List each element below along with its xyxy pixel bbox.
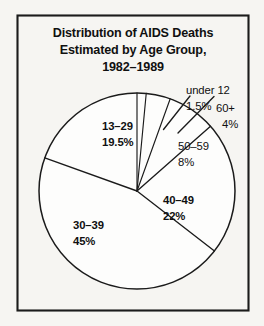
callout-60-plus-value: 4% xyxy=(222,118,238,130)
callout-60-plus-name: 60+ xyxy=(216,102,235,114)
callout-under-12-name: under 12 xyxy=(186,84,230,96)
callout-under-12-value: 1.5% xyxy=(186,100,211,112)
slice-label-40-49-name: 40–49 xyxy=(163,194,194,206)
pie-chart-figure: Distribution of AIDS Deaths Estimated by… xyxy=(0,0,264,326)
chart-title: Distribution of AIDS Deaths Estimated by… xyxy=(53,26,214,74)
slice-label-50-59-value: 8% xyxy=(178,156,194,168)
slice-label-13-29-value: 19.5% xyxy=(102,136,134,148)
title-line-1: Distribution of AIDS Deaths xyxy=(53,26,214,40)
title-line-3: 1982–1989 xyxy=(102,60,164,74)
slice-label-30-39-value: 45% xyxy=(73,235,95,247)
slice-label-30-39-name: 30–39 xyxy=(73,219,104,231)
title-line-2: Estimated by Age Group, xyxy=(60,43,207,57)
slice-label-13-29-name: 13–29 xyxy=(102,120,133,132)
callout-60-plus: 60+ 4% xyxy=(216,102,238,130)
figure-root: Distribution of AIDS Deaths Estimated by… xyxy=(0,0,264,326)
slice-label-50-59-name: 50–59 xyxy=(178,140,209,152)
slice-label-40-49-value: 22% xyxy=(163,210,185,222)
